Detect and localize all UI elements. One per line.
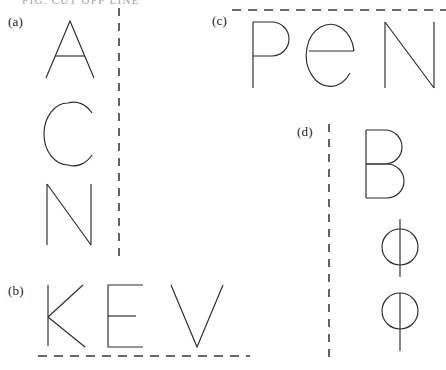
panel-b-glyph-V — [171, 285, 223, 347]
panel-d-glyph-q — [382, 293, 418, 351]
panel-d-glyph-B — [366, 130, 404, 198]
panel-d-glyph-d — [382, 219, 418, 277]
glyph-drawing-layer — [0, 0, 446, 370]
figure-canvas: FIG. CUT OFF LINE (a) (b) (c) (d) — [0, 0, 446, 370]
panel-c-glyph-e — [306, 24, 354, 86]
panel-label-b: (b) — [8, 283, 24, 299]
panel-b-glyph-K — [48, 285, 85, 347]
panel-label-d: (d) — [297, 124, 313, 140]
panel-b-glyph-E — [108, 285, 143, 347]
panel-a-glyph-A — [46, 21, 94, 78]
panel-a-glyph-C — [44, 102, 92, 166]
panel-c-glyph-P — [253, 22, 289, 88]
panel-a-glyph-N — [47, 184, 91, 245]
panel-c-glyph-N — [385, 22, 434, 88]
clipped-top-caption: FIG. CUT OFF LINE — [22, 0, 140, 6]
panel-label-a: (a) — [8, 14, 23, 30]
panel-label-c: (c) — [212, 13, 227, 29]
